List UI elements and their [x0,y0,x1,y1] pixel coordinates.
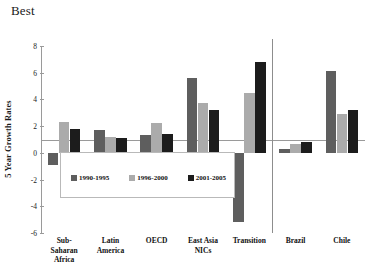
bar-group [94,46,127,233]
bar [94,130,105,153]
bar-group [326,46,359,233]
legend-swatch-icon [188,175,194,181]
legend-item[interactable]: 1990-1995 [71,174,109,182]
legend-label: 1990-1995 [79,174,109,182]
bar [301,142,312,153]
bar [162,134,173,153]
y-tick-label: 2 [33,122,37,131]
bar [59,122,70,153]
y-tick-label: -4 [31,202,37,211]
group-separator-line [272,39,273,233]
bar [105,137,116,153]
chart-title: Best [11,3,35,19]
bar [116,138,127,153]
legend: 1990-19951996-20002001-2005 [60,152,235,198]
bar [255,62,266,153]
bar [244,93,255,153]
y-tick-mark [40,46,44,47]
bar [151,123,162,152]
x-axis-label: Brazil [272,236,318,246]
bar-group [187,46,220,233]
bar [337,114,348,153]
bar-group [279,46,312,233]
y-tick-mark [40,99,44,100]
legend-swatch-icon [129,175,135,181]
y-tick-mark [40,233,44,234]
y-tick-label: 6 [33,68,37,77]
y-tick-label: -6 [31,229,37,238]
bar [48,153,59,165]
x-axis-label: Chile [319,236,365,246]
x-axis-label: LatinAmerica [87,236,133,255]
legend-swatch-icon [71,175,77,181]
legend-item[interactable]: 2001-2005 [188,174,226,182]
x-axis-label: OECD [134,236,180,246]
bar-group [140,46,173,233]
y-tick-mark [40,73,44,74]
x-axis-label: Transition [226,236,272,246]
y-tick-label: 4 [33,95,37,104]
y-tick-mark [40,153,44,154]
bar-group [48,46,81,233]
bar [209,110,220,153]
bar [290,144,301,153]
y-tick-mark [40,126,44,127]
plot-area: 86420-2-4-6 [41,46,365,233]
y-tick-label: 8 [33,42,37,51]
y-tick-mark [40,180,44,181]
y-tick-label: 0 [33,148,37,157]
bar [198,103,209,152]
bar [279,149,290,153]
legend-items: 1990-19951996-20002001-2005 [61,172,236,184]
legend-label: 1996-2000 [137,174,167,182]
x-axis-labels: Sub-SaharanAfricaLatinAmericaOECDEast As… [41,236,365,267]
bar [348,110,359,153]
bar [140,135,151,152]
x-axis-label: East AsiaNICs [180,236,226,255]
bar [70,129,81,153]
legend-item[interactable]: 1996-2000 [129,174,167,182]
bar [326,71,337,152]
growth-rates-bar-chart: Best 5 Year Growth Rates 86420-2-4-6 199… [0,0,370,267]
legend-label: 2001-2005 [196,174,226,182]
bar [187,78,198,153]
x-axis-label: Sub-SaharanAfrica [41,236,87,265]
y-tick-mark [40,206,44,207]
y-tick-label: -2 [31,175,37,184]
y-axis-title: 5 Year Growth Rates [3,100,13,178]
bar-group [233,46,266,233]
y-axis-title-container: 5 Year Growth Rates [0,44,16,234]
